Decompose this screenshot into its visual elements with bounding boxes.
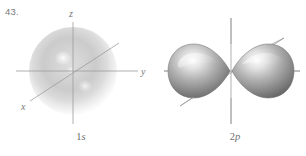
orbital-panel-2p: 2p	[160, 0, 306, 156]
caption-2p: 2p	[162, 131, 306, 142]
axis-label-x: x	[20, 101, 26, 112]
axis-label-y: y	[140, 66, 146, 77]
orbital-lobe-left	[168, 44, 230, 98]
orbital-panel-1s: z y x 1s	[8, 0, 158, 156]
caption-1s: 1s	[6, 131, 156, 142]
axis-label-z: z	[68, 8, 73, 19]
orbital-figure: 43.	[0, 0, 306, 156]
orbital-lobe-right	[232, 44, 294, 98]
caption-2p-subshell: p	[235, 131, 240, 142]
caption-1s-subshell: s	[82, 131, 86, 142]
